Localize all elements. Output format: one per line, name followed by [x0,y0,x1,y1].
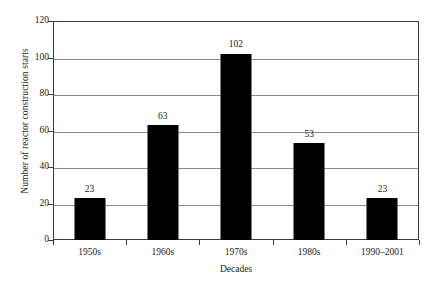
y-axis-tick-label: 60 [9,126,49,136]
y-axis-tick-label: 0 [9,235,49,245]
y-axis-tick-label: 120 [9,16,49,26]
x-axis-tick-mark [126,240,127,245]
x-axis-tick-mark [346,240,347,245]
y-axis-tick-label: 100 [9,53,49,63]
x-axis-tick-label: 1950s [78,248,101,258]
x-axis-tick-mark [273,240,274,245]
bar[interactable] [74,198,105,240]
bar-slot: 63 [126,21,199,240]
bar-value-label: 53 [304,130,314,140]
x-axis-title: Decades [53,264,419,274]
x-axis-tick-mark [199,240,200,245]
bar[interactable] [220,54,251,240]
y-axis-tick-label: 80 [9,89,49,99]
x-axis-tick-label: 1990–2001 [361,248,404,258]
bar-slot: 102 [199,21,272,240]
bar[interactable] [147,125,178,240]
x-axis-tick-label: 1970s [225,248,248,258]
bar-chart: Number of reactor construction starts 02… [0,0,434,287]
x-axis-tick-mark [419,240,420,245]
x-axis-tick-label: 1960s [151,248,174,258]
y-axis-tick-label: 20 [9,199,49,209]
x-axis-tick-mark [53,240,54,245]
bar-slot: 53 [273,21,346,240]
bar-slot: 23 [346,21,419,240]
y-axis-tick-label: 40 [9,162,49,172]
x-axis-tick-label: 1980s [298,248,321,258]
bar-value-label: 23 [85,185,95,195]
bar-value-label: 63 [158,112,168,122]
bar-slot: 23 [53,21,126,240]
bars-group: 23631025323 [53,21,419,240]
bar[interactable] [294,143,325,240]
bar[interactable] [367,198,398,240]
bar-value-label: 102 [229,40,243,50]
bar-value-label: 23 [378,185,388,195]
